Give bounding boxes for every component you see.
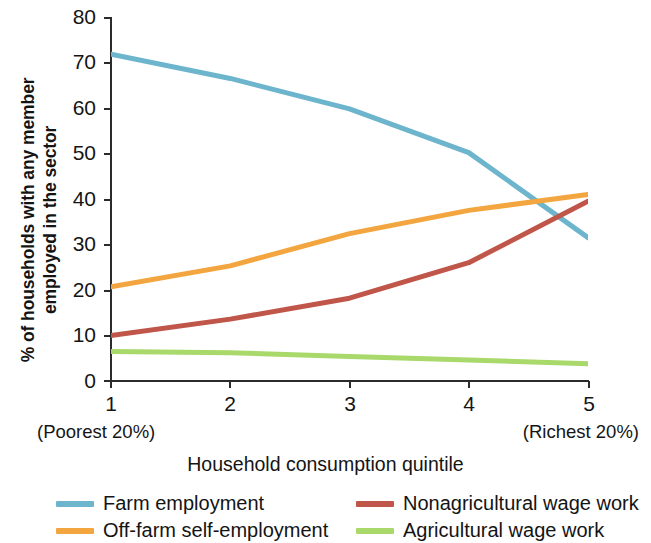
y-tick-label-80: 80 [50,5,96,29]
legend-label: Nonagricultural wage work [403,492,639,515]
y-tick-label-70: 70 [50,50,96,74]
y-axis-title: % of households with any member employed… [18,30,62,410]
x-tick-label-5: 5 [559,392,619,416]
y-tick-label-30: 30 [50,232,96,256]
chart-legend: Farm employment Nonagricultural wage wor… [56,490,636,543]
series-line-agricultural-wage-work [111,351,588,363]
x-axis-poorest-label: (Poorest 20%) [37,421,155,443]
y-tick-label-60: 60 [50,96,96,120]
legend-label: Farm employment [103,492,264,515]
legend-swatch-icon [356,528,394,534]
x-axis-richest-label: (Richest 20%) [523,421,639,443]
plot-area [111,17,588,381]
x-tick-mark-4 [468,381,470,388]
series-line-farm-employment [111,54,588,237]
x-tick-mark-5 [588,381,590,388]
legend-item-off-farm-self-employment[interactable]: Off-farm self-employment [56,519,356,542]
series-lines-svg [111,17,588,381]
y-tick-label-10: 10 [50,323,96,347]
x-tick-label-3: 3 [320,392,380,416]
y-tick-label-50: 50 [50,141,96,165]
line-chart-figure: % of households with any member employed… [0,0,651,543]
x-tick-label-4: 4 [439,392,499,416]
y-tick-label-20: 20 [50,278,96,302]
y-tick-label-40: 40 [50,187,96,211]
x-tick-label-1: 1 [81,392,141,416]
legend-swatch-icon [56,501,94,507]
legend-item-nonagricultural-wage-work[interactable]: Nonagricultural wage work [356,492,636,515]
legend-label: Off-farm self-employment [103,519,328,542]
x-axis-title: Household consumption quintile [0,453,651,476]
x-tick-label-2: 2 [200,392,260,416]
legend-item-agricultural-wage-work[interactable]: Agricultural wage work [356,519,636,542]
y-tick-label-0: 0 [50,369,96,393]
legend-item-farm-employment[interactable]: Farm employment [56,492,356,515]
series-line-nonagricultural-wage-work [111,201,588,335]
x-tick-mark-3 [349,381,351,388]
legend-swatch-icon [56,528,94,534]
x-tick-mark-1 [110,381,112,388]
x-tick-mark-2 [229,381,231,388]
legend-swatch-icon [356,501,394,507]
legend-label: Agricultural wage work [403,519,604,542]
